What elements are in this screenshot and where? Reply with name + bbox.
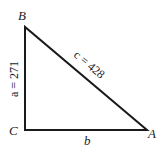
side-label-c: c = 428 (71, 48, 108, 82)
side-label-b: b (84, 133, 91, 148)
side-label-a: a = 271 (7, 61, 21, 97)
triangle-shape (25, 27, 147, 130)
vertex-label-b: B (18, 8, 26, 23)
triangle-diagram: B C A a = 271 b c = 428 (0, 0, 163, 157)
vertex-label-a: A (147, 126, 156, 141)
vertex-label-c: C (9, 123, 18, 138)
